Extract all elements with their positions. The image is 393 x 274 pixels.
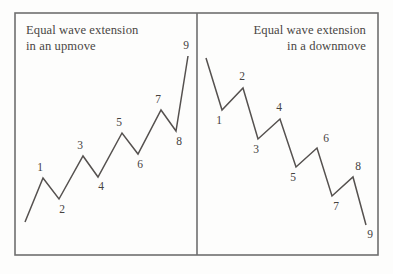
- wave-extension-figure: Equal wave extension in an upmove 123456…: [0, 0, 393, 274]
- wave-point-label: 6: [323, 132, 329, 144]
- downmove-wave-labels: 123456789: [216, 70, 373, 240]
- panel-downmove-title-line2: in a downmove: [287, 39, 366, 53]
- wave-point-label: 7: [155, 93, 161, 105]
- wave-point-label: 2: [239, 70, 245, 82]
- wave-point-label: 9: [367, 228, 373, 240]
- wave-point-label: 8: [355, 160, 361, 172]
- upmove-wave-line: [25, 56, 188, 222]
- panel-downmove: Equal wave extension in a downmove 12345…: [206, 23, 373, 240]
- wave-point-label: 5: [290, 171, 296, 183]
- wave-point-label: 1: [37, 161, 43, 173]
- wave-point-label: 7: [333, 200, 339, 212]
- wave-point-label: 3: [77, 139, 83, 151]
- wave-point-label: 3: [253, 143, 259, 155]
- panel-downmove-title-line1: Equal wave extension: [253, 23, 366, 37]
- panel-upmove: Equal wave extension in an upmove 123456…: [25, 23, 189, 222]
- wave-point-label: 4: [98, 180, 104, 192]
- wave-point-label: 9: [183, 39, 189, 51]
- wave-point-label: 5: [116, 116, 122, 128]
- downmove-wave-line: [206, 58, 366, 225]
- wave-point-label: 2: [59, 203, 65, 215]
- panel-upmove-title-line2: in an upmove: [26, 39, 96, 53]
- upmove-wave-labels: 123456789: [37, 39, 189, 215]
- wave-point-label: 8: [176, 135, 182, 147]
- panel-upmove-title-line1: Equal wave extension: [26, 23, 139, 37]
- wave-point-label: 6: [137, 158, 143, 170]
- wave-point-label: 1: [216, 114, 222, 126]
- wave-point-label: 4: [276, 101, 282, 113]
